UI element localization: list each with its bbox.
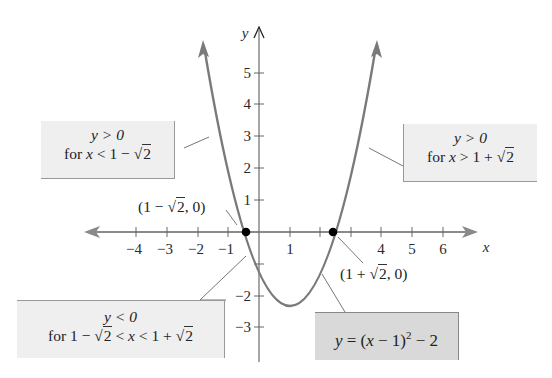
annotation-line2: for x > 1 + √2 [404,147,537,166]
annotation-condition: y > 0 [454,129,487,146]
x-tick-label: −1 [218,241,234,257]
x-tick-label: 1 [286,241,294,257]
sqrt-symbol: √ [497,148,506,165]
x-tick-label: −2 [188,241,204,257]
sqrt-radicand: 2 [103,326,112,344]
point-label-left: (1 − √2, 0) [138,197,205,216]
text-for: for [64,145,86,162]
annotation-left-positive: y > 0 for x < 1 − √2 [41,121,175,179]
sqrt-radicand: 2 [505,147,514,165]
x-tick-labels: −4 −3 −2 −1 1 4 5 6 x [126,239,490,257]
leader-lines [184,137,403,312]
relation: < [112,327,129,344]
annotation-line1: y > 0 [404,128,537,147]
expr: − 1) [374,331,406,350]
annotation-line2: for 1 − √2 < x < 1 + √2 [17,326,224,345]
y-tick-label: 2 [244,160,252,176]
annotation-line2: for x < 1 − √2 [41,144,174,163]
x-tick-label: −4 [126,241,142,257]
annotation-condition: y < 0 [104,308,137,325]
curve-left-arrow-icon [198,40,209,58]
annotation-condition: y > 0 [91,126,124,143]
relation: < 1 − [93,145,134,162]
sqrt-radicand: 2 [378,264,387,282]
sqrt-radicand: 2 [184,326,193,344]
point-label-right: (1 + √2, 0) [340,264,407,283]
var-x: x [128,327,135,344]
sqrt-symbol: √ [134,145,143,162]
y-tick-label: 4 [244,96,252,112]
x-axis [84,226,478,238]
x-tick-label: 6 [439,241,447,257]
y-tick-label: 1 [244,192,252,208]
y-tick-label: −3 [235,319,251,335]
var-x: x [449,148,456,165]
relation: < 1 + [135,327,176,344]
sqrt-symbol: √ [176,327,185,344]
annotation-negative: y < 0 for 1 − √2 < x < 1 + √2 [17,300,225,358]
y-tick-label: 3 [244,128,252,144]
y-tick-label: −2 [235,288,251,304]
sqrt-radicand: 2 [176,197,185,215]
sqrt-symbol: √ [94,327,103,344]
annotation-line1: y < 0 [17,307,224,326]
curve-right-arrow-icon [371,40,382,58]
sqrt-symbol: √ [167,198,176,215]
x-tick-label: −3 [157,241,173,257]
var-x: x [86,145,93,162]
point-label-left-post: , 0) [185,198,206,215]
x-axis-label: x [482,239,490,255]
x-intercept-left-point [242,228,251,237]
point-label-right-post: , 0) [387,265,408,282]
x-intercept-right-point [329,228,338,237]
expr-tail: − 2 [412,331,439,350]
x-tick-label: 5 [408,241,416,257]
text-for: for [427,148,449,165]
y-tick-label: 5 [244,65,252,81]
point-label-right-pre: (1 + [340,265,369,282]
annotation-line1: y > 0 [41,125,174,144]
point-label-left-pre: (1 − [138,198,167,215]
x-tick-label: 4 [377,241,385,257]
annotation-right-positive: y > 0 for x > 1 + √2 [403,124,537,182]
relation: > 1 + [456,148,497,165]
equation-label: y = (x − 1)2 − 2 [315,312,459,360]
text-for: for 1 − [48,327,94,344]
y-axis-label: y [240,25,249,41]
var-x: x [366,331,374,350]
sqrt-radicand: 2 [142,144,151,162]
sqrt-symbol: √ [369,265,378,282]
equals: = ( [342,331,366,350]
y-tick-labels: 5 4 3 2 1 −2 −3 [235,65,251,335]
